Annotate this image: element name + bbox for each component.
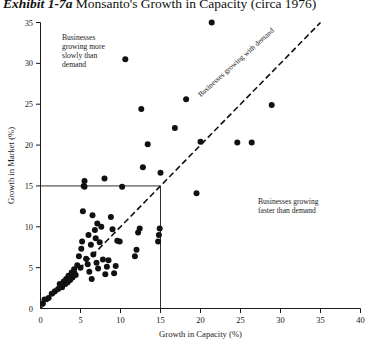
data-point bbox=[137, 225, 143, 231]
data-point bbox=[90, 252, 96, 258]
x-tick-label: 15 bbox=[156, 316, 164, 325]
data-point bbox=[102, 176, 108, 182]
data-point bbox=[183, 96, 189, 102]
data-point bbox=[92, 227, 98, 233]
data-point bbox=[145, 141, 151, 147]
y-tick-label: 15 bbox=[25, 182, 33, 191]
data-point bbox=[140, 164, 146, 170]
x-tick-label: 40 bbox=[356, 316, 364, 325]
data-point bbox=[95, 265, 101, 271]
data-point bbox=[86, 232, 92, 238]
data-point bbox=[85, 261, 91, 267]
data-point bbox=[100, 256, 106, 262]
data-point bbox=[94, 260, 100, 266]
data-point bbox=[158, 170, 164, 176]
y-tick-label: 10 bbox=[25, 223, 33, 232]
y-tick-label: 5 bbox=[29, 264, 33, 273]
data-point bbox=[132, 253, 138, 259]
data-point bbox=[269, 102, 275, 108]
data-point bbox=[113, 263, 119, 269]
data-point bbox=[156, 232, 162, 238]
x-axis-title: Growth in Capacity (%) bbox=[159, 329, 242, 339]
data-point bbox=[155, 238, 161, 244]
data-point bbox=[78, 246, 84, 252]
data-point bbox=[78, 265, 84, 271]
data-point bbox=[117, 238, 123, 244]
data-point bbox=[198, 139, 204, 145]
data-point bbox=[134, 247, 140, 253]
y-tick-label: 20 bbox=[25, 141, 33, 150]
x-tick-label: 20 bbox=[196, 316, 204, 325]
data-point bbox=[82, 184, 88, 190]
data-point bbox=[97, 239, 103, 245]
chart-figure: Exhibit 1-7a Monsanto's Growth in Capaci… bbox=[0, 0, 375, 342]
data-point bbox=[157, 225, 163, 231]
annotation-slower-than-demand: Businesses growing more slowly than dema… bbox=[62, 33, 105, 69]
data-point bbox=[104, 264, 110, 270]
data-point bbox=[110, 226, 116, 232]
data-point bbox=[86, 269, 92, 275]
data-point bbox=[209, 20, 215, 26]
x-tick-label: 0 bbox=[38, 316, 42, 325]
data-point bbox=[89, 276, 95, 282]
data-point bbox=[80, 208, 86, 214]
data-point bbox=[82, 178, 88, 184]
y-tick-label: 25 bbox=[25, 100, 33, 109]
data-point bbox=[249, 140, 255, 146]
x-tick-label: 25 bbox=[236, 316, 244, 325]
data-point bbox=[106, 257, 112, 263]
data-point bbox=[88, 242, 94, 248]
data-point bbox=[98, 224, 104, 230]
x-tick-label: 30 bbox=[276, 316, 284, 325]
data-point bbox=[90, 212, 96, 218]
data-point bbox=[194, 190, 200, 196]
y-axis-title: Growth in Market (%) bbox=[6, 127, 16, 204]
y-tick-label: 0 bbox=[29, 305, 33, 314]
scatter-plot: 051015202530354005101520253035Growth in … bbox=[0, 0, 375, 342]
data-point bbox=[73, 272, 79, 278]
data-point bbox=[122, 56, 128, 62]
x-tick-label: 35 bbox=[316, 316, 324, 325]
data-point bbox=[76, 253, 82, 259]
data-point bbox=[79, 238, 85, 244]
data-point bbox=[102, 271, 108, 277]
y-tick-label: 30 bbox=[25, 59, 33, 68]
x-tick-label: 10 bbox=[116, 316, 124, 325]
data-point bbox=[138, 106, 144, 112]
data-point bbox=[119, 184, 125, 190]
data-point bbox=[111, 270, 117, 276]
data-point bbox=[108, 214, 114, 220]
x-tick-label: 5 bbox=[78, 316, 82, 325]
data-point bbox=[83, 256, 89, 262]
data-point bbox=[172, 125, 178, 131]
y-tick-label: 35 bbox=[25, 19, 33, 28]
annotation-faster-than-demand: Businesses growing faster than demand bbox=[258, 197, 319, 215]
data-point bbox=[234, 140, 240, 146]
